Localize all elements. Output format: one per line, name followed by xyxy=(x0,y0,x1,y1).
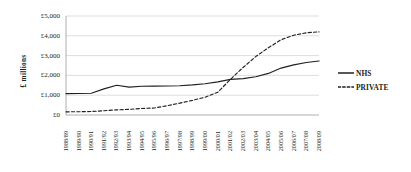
x-tick-label: 1996/97 xyxy=(163,118,171,170)
plot-area xyxy=(66,16,319,115)
x-tick-label-text: 1990/91 xyxy=(88,131,94,151)
legend-label: NHS xyxy=(356,69,372,78)
x-tick-label-text: 1989/90 xyxy=(76,131,82,151)
x-tick-label: 1995/96 xyxy=(151,118,159,170)
x-tick-label: 2001/02 xyxy=(226,118,234,170)
y-tick-label: £0 xyxy=(30,112,63,119)
legend-item-nhs[interactable]: NHS xyxy=(338,66,408,80)
x-tick-label: 2007/08 xyxy=(302,118,310,170)
legend-swatch-solid-icon xyxy=(338,69,354,77)
x-tick-label-text: 1996/97 xyxy=(164,131,170,151)
series-lines xyxy=(66,32,319,112)
x-tick-label: 1990/91 xyxy=(87,118,95,170)
x-tick-label: 1998/99 xyxy=(189,118,197,170)
x-tick-label-text: 2007/08 xyxy=(303,131,309,151)
x-tick-label: 1988/89 xyxy=(62,118,70,170)
x-tick-label-text: 1992/93 xyxy=(114,131,120,151)
x-tick-label: 2004/05 xyxy=(264,118,272,170)
plot-svg xyxy=(66,16,319,115)
series-line-private xyxy=(66,32,319,112)
y-tick-label: £2,000 xyxy=(30,72,63,79)
y-tick-label: £3,000 xyxy=(30,52,63,59)
x-tick-label: 2003/04 xyxy=(252,118,260,170)
y-axis-tick-labels: £0£1,000£2,000£3,000£4,000£5,000 xyxy=(30,0,63,172)
x-tick-label-text: 2008/09 xyxy=(316,131,322,151)
chart-legend: NHSPRIVATE xyxy=(338,66,408,94)
gridlines xyxy=(66,16,319,95)
x-tick-label: 1999/00 xyxy=(201,118,209,170)
y-tick-label: £4,000 xyxy=(30,32,63,39)
x-tick-label: 2005/06 xyxy=(277,118,285,170)
y-tick-label: £5,000 xyxy=(30,13,63,20)
line-chart: £ millions £0£1,000£2,000£3,000£4,000£5,… xyxy=(0,0,411,172)
y-tick-label: £1,000 xyxy=(30,92,63,99)
x-tick-label-text: 2005/06 xyxy=(278,131,284,151)
x-tick-label: 2008/09 xyxy=(315,118,323,170)
x-tick-label: 1991/92 xyxy=(100,118,108,170)
legend-swatch-dotted-icon xyxy=(338,83,354,91)
x-tick-label-text: 1991/92 xyxy=(101,131,107,151)
legend-label: PRIVATE xyxy=(356,83,388,92)
series-line-nhs xyxy=(66,61,319,94)
y-axis-title: £ millions xyxy=(17,38,31,104)
legend-item-private[interactable]: PRIVATE xyxy=(338,80,408,94)
y-axis-title-label: £ millions xyxy=(20,55,28,88)
x-tick-label: 1989/90 xyxy=(75,118,83,170)
x-tick-label: 1993/94 xyxy=(125,118,133,170)
x-tick-label: 1994/95 xyxy=(138,118,146,170)
x-tick-label: 2000/01 xyxy=(214,118,222,170)
x-tick-label-text: 1995/96 xyxy=(151,131,157,151)
x-tick-label-text: 2000/01 xyxy=(215,131,221,151)
x-tick-label-text: 2006/07 xyxy=(291,131,297,151)
x-tick-label-text: 1994/95 xyxy=(139,131,145,151)
x-tick-label: 2002/03 xyxy=(239,118,247,170)
x-tick-label-text: 2001/02 xyxy=(227,131,233,151)
x-tick-label-text: 1998/99 xyxy=(189,131,195,151)
x-tick-label-text: 2003/04 xyxy=(253,131,259,151)
x-tick-label: 2006/07 xyxy=(290,118,298,170)
x-tick-label-text: 1997/98 xyxy=(177,131,183,151)
x-tick-label-text: 2002/03 xyxy=(240,131,246,151)
x-tick-label-text: 1999/00 xyxy=(202,131,208,151)
x-tick-label-text: 2004/05 xyxy=(265,131,271,151)
x-tick-label-text: 1993/94 xyxy=(126,131,132,151)
x-tick-label: 1992/93 xyxy=(113,118,121,170)
x-tick-label-text: 1988/89 xyxy=(63,131,69,151)
x-tick-label: 1997/98 xyxy=(176,118,184,170)
x-axis-tick-labels: 1988/891989/901990/911991/921992/931993/… xyxy=(66,116,319,172)
